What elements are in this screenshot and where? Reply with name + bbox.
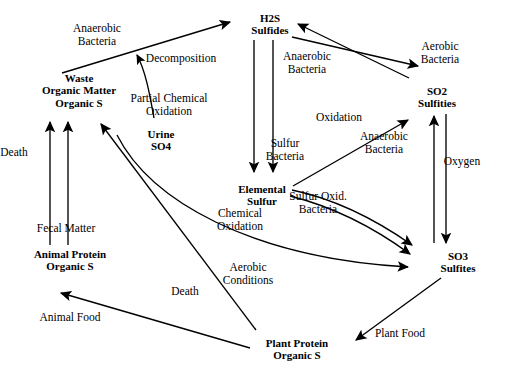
edge-label-sulfur-bacteria: SulfurBacteria — [254, 137, 316, 163]
edge-label-aerobic-bacteria-so2: AerobicBacteria — [408, 40, 472, 66]
node-plant-protein: Plant ProteinOrganic S — [240, 337, 354, 362]
edge-text-line: Animal Food — [28, 311, 112, 324]
edge-text-line: Oxidation — [205, 220, 275, 233]
edge-text-line: Oxygen — [435, 155, 489, 168]
edge-text-line: Plant Food — [364, 327, 436, 340]
edge-text-line: Partial Chemical — [114, 92, 224, 105]
node-text-line: Sulfides — [225, 24, 315, 36]
edge-text-line: Bacteria — [408, 53, 472, 66]
edge-text-line: Aerobic — [212, 261, 284, 274]
edge-text-line: Anaerobic — [58, 22, 136, 35]
node-so2-sulfities: SO2Sulfities — [394, 85, 480, 110]
edge-text-line: Anaerobic — [349, 130, 419, 143]
node-text-line: SO2 — [394, 85, 480, 97]
edge-label-oxygen: Oxygen — [435, 155, 489, 168]
edge-label-decomposition: Decomposition — [135, 52, 227, 65]
edge-label-animal-food: Animal Food — [28, 311, 112, 324]
edge-text-line: Death — [162, 285, 208, 298]
edge-text-line: Fecal Matter — [27, 222, 105, 235]
edge-label-chemical-oxidation: ChemicalOxidation — [205, 207, 275, 233]
node-h2s-sulfides: H2SSulfides — [225, 12, 315, 37]
node-text-line: Sulfities — [394, 97, 480, 109]
sulfur-cycle-diagram: H2SSulfides WasteOrganic MatterOrganic S… — [0, 0, 515, 388]
edge-text-line: Bacteria — [58, 35, 136, 48]
edge-text-line: Oxidation — [114, 105, 224, 118]
edge-label-death-center: Death — [162, 285, 208, 298]
edge-label-fecal-matter: Fecal Matter — [27, 222, 105, 235]
edge-text-line: Sulfur — [254, 137, 316, 150]
edge-label-oxidation: Oxidation — [305, 111, 373, 124]
node-text-line: H2S — [225, 12, 315, 24]
edge-text-line: Chemical — [205, 207, 275, 220]
edge-label-sulfur-oxid-bacteria: Sulfur Oxid.Bacteria — [279, 190, 357, 216]
node-text-line: SO3 — [423, 250, 493, 262]
edge-label-aerobic-conditions: AerobicConditions — [212, 261, 284, 287]
edge-text-line: Sulfur Oxid. — [279, 190, 357, 203]
edge-text-line: Aerobic — [408, 40, 472, 53]
edge-text-line: Decomposition — [135, 52, 227, 65]
edge-text-line: Conditions — [212, 274, 284, 287]
node-text-line: Sulfites — [423, 262, 493, 274]
node-text-line: Urine — [131, 128, 191, 140]
node-text-line: Organic S — [10, 260, 130, 272]
edge-text-line: Oxidation — [305, 111, 373, 124]
edge-label-anaerobic-bacteria-decomposition: AnaerobicBacteria — [58, 22, 136, 48]
edge-text-line: Death — [0, 146, 37, 159]
edge-label-plant-food: Plant Food — [364, 327, 436, 340]
edge-text-line: Bacteria — [349, 143, 419, 156]
node-text-line: Waste — [16, 72, 142, 84]
edge-label-partial-chemical-oxidation: Partial ChemicalOxidation — [114, 92, 224, 118]
node-urine-so4: UrineSO4 — [131, 128, 191, 153]
edge-text-line: Bacteria — [279, 203, 357, 216]
node-animal-protein: Animal ProteinOrganic S — [10, 248, 130, 273]
node-so3-sulfites: SO3Sulfites — [423, 250, 493, 275]
edge-text-line: Bacteria — [271, 63, 343, 76]
node-text-line: Organic S — [240, 349, 354, 361]
edge-label-anaerobic-bacteria-h2s: AnaerobicBacteria — [271, 50, 343, 76]
edge-text-line: Bacteria — [254, 150, 316, 163]
edge-label-death-left: Death — [0, 146, 37, 159]
edge-label-anaerobic-bacteria-so3: AnaerobicBacteria — [349, 130, 419, 156]
edge-text-line: Anaerobic — [271, 50, 343, 63]
node-text-line: SO4 — [131, 140, 191, 152]
node-text-line: Plant Protein — [240, 337, 354, 349]
node-text-line: Animal Protein — [10, 248, 130, 260]
